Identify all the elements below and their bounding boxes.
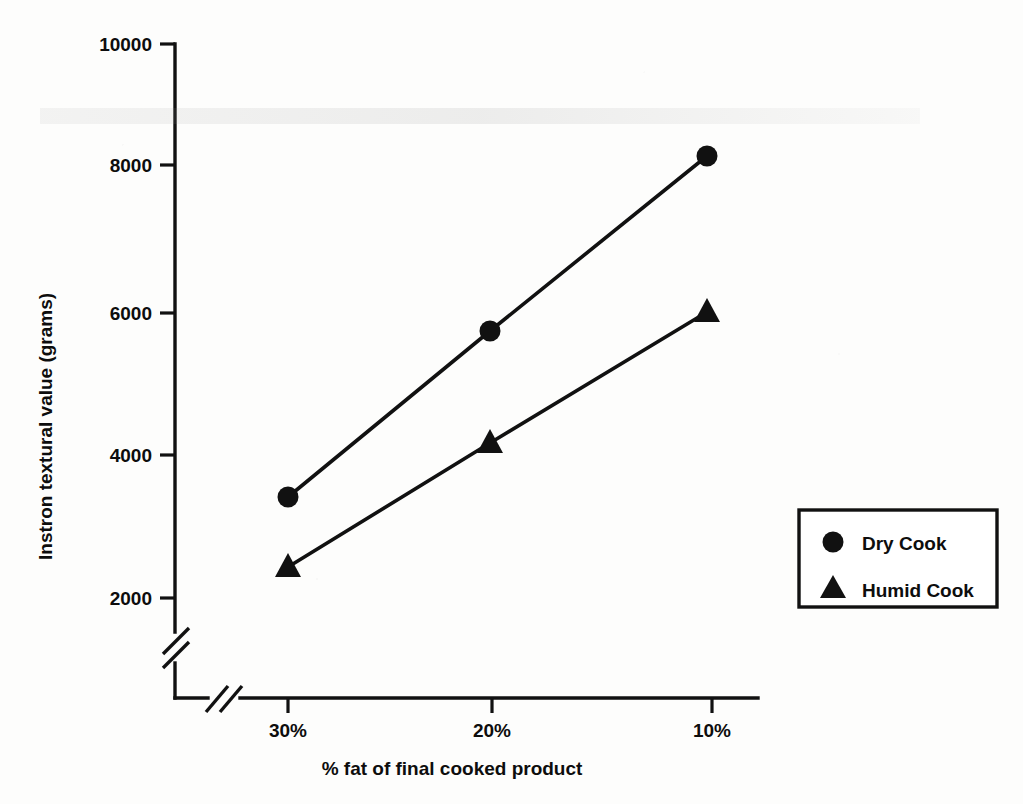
y-tick-label-10000: 10000 (99, 34, 152, 55)
legend-label-dry-cook: Dry Cook (862, 533, 947, 554)
x-tick-label-30pct: 30% (269, 720, 307, 741)
data-point-dry-cook-20pct (480, 321, 501, 342)
x-axis-break-icon (206, 686, 242, 712)
x-tick-label-20pct: 20% (473, 720, 511, 741)
legend: Dry Cook Humid Cook (799, 510, 997, 607)
series-dry-cook (278, 146, 718, 508)
x-tick-label-10pct: 10% (693, 720, 731, 741)
data-point-humid-cook-20pct (477, 429, 503, 453)
x-axis-title: % fat of final cooked product (322, 758, 583, 779)
y-tick-label-6000: 6000 (110, 303, 152, 324)
data-point-humid-cook-30pct (275, 553, 301, 577)
y-tick-label-2000: 2000 (110, 588, 152, 609)
y-tick-label-4000: 4000 (110, 445, 152, 466)
chart-figure: 10000 8000 6000 4000 2000 Instron textur… (0, 0, 1023, 804)
line-chart: 10000 8000 6000 4000 2000 Instron textur… (0, 0, 1023, 804)
legend-label-humid-cook: Humid Cook (862, 580, 974, 601)
series-line-humid-cook (288, 312, 707, 567)
circle-marker-icon (823, 532, 844, 553)
y-tick-label-8000: 8000 (110, 155, 152, 176)
x-axis: 30% 20% 10% % fat of final cooked produc… (175, 686, 758, 779)
y-axis: 10000 8000 6000 4000 2000 Instron textur… (35, 34, 189, 698)
data-point-dry-cook-30pct (278, 487, 299, 508)
data-point-dry-cook-10pct (697, 146, 718, 167)
y-axis-title: Instron textural value (grams) (35, 293, 56, 560)
series-humid-cook (275, 298, 720, 577)
data-point-humid-cook-10pct (694, 298, 720, 322)
